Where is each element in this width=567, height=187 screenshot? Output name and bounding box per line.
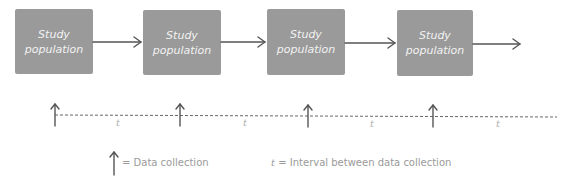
legend-t-label: = Interval between data collection: [278, 157, 451, 168]
legend-t-symbol: t: [271, 157, 275, 168]
right-arrow-icon: [93, 37, 141, 47]
timeline-dashed-line: [55, 115, 557, 117]
legend-arrow-icon: [110, 152, 118, 175]
legend-interval: t = Interval between data collection: [271, 157, 451, 168]
interval-label: t: [243, 117, 247, 128]
interval-label: t: [116, 117, 120, 128]
legend-data-collection: = Data collection: [122, 157, 209, 168]
legend-arrow-label: = Data collection: [122, 157, 209, 168]
right-arrow-icon: [345, 38, 395, 48]
interval-label: t: [496, 118, 500, 129]
interval-label: t: [370, 118, 374, 129]
right-arrow-icon: [221, 37, 265, 47]
right-arrow-icon: [473, 39, 520, 49]
